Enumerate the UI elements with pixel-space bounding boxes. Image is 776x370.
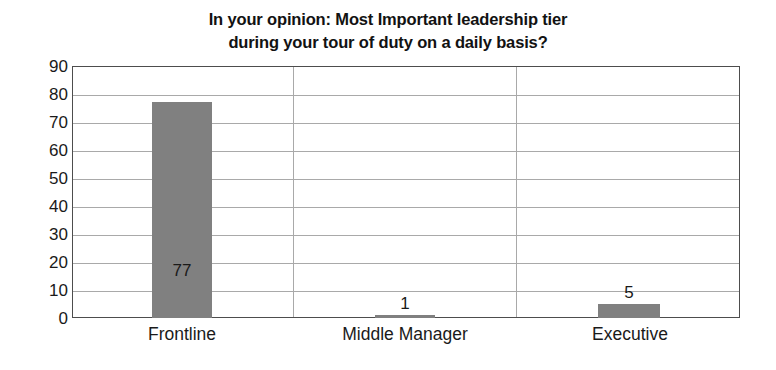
x-tick-label-frontline: Frontline <box>102 324 262 345</box>
y-tick-label: 10 <box>6 282 68 299</box>
y-tick-label: 40 <box>6 198 68 215</box>
gridline-horizontal <box>73 207 739 208</box>
y-tick-label: 80 <box>6 86 68 103</box>
y-tick-label: 50 <box>6 170 68 187</box>
gridline-horizontal <box>73 95 739 96</box>
gridline-horizontal <box>73 151 739 152</box>
y-tick-label: 0 <box>6 310 68 327</box>
gridline-horizontal <box>73 123 739 124</box>
bar-chart: In your opinion: Most Important leadersh… <box>0 0 776 370</box>
gridline-vertical <box>516 67 517 317</box>
x-tick-label-middle-manager: Middle Manager <box>315 324 495 345</box>
gridline-horizontal <box>73 291 739 292</box>
gridline-vertical <box>293 67 294 317</box>
y-tick-label: 20 <box>6 254 68 271</box>
y-tick-label: 70 <box>6 114 68 131</box>
plot-area <box>72 66 740 318</box>
chart-title-line-2: during your tour of duty on a daily basi… <box>0 31 776 54</box>
x-tick-label-executive: Executive <box>550 324 710 345</box>
y-tick-label: 60 <box>6 142 68 159</box>
chart-title: In your opinion: Most Important leadersh… <box>0 8 776 55</box>
y-tick-label: 30 <box>6 226 68 243</box>
gridline-horizontal <box>73 179 739 180</box>
gridline-horizontal <box>73 235 739 236</box>
chart-title-line-1: In your opinion: Most Important leadersh… <box>0 8 776 31</box>
x-axis: Frontline Middle Manager Executive <box>72 324 740 354</box>
y-axis: 90 80 70 60 50 40 30 20 10 0 <box>0 66 68 318</box>
y-tick-label: 90 <box>6 58 68 75</box>
gridline-horizontal <box>73 263 739 264</box>
